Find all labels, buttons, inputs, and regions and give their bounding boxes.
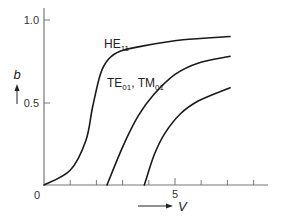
- curve-1: [107, 56, 230, 185]
- curve-label-he11: HE11: [104, 37, 130, 53]
- curves: [44, 37, 230, 186]
- x-axis-arrow-icon: [138, 204, 173, 209]
- curve-0: [44, 37, 230, 186]
- origin-label: 0: [34, 189, 40, 201]
- curve-label-te01-tm01: TE01, TM01: [107, 76, 164, 92]
- y-tick-label-05: 0.5: [24, 97, 39, 109]
- y-axis-label: b: [13, 67, 20, 82]
- x-ticks: [70, 178, 253, 185]
- x-axis-label: V: [178, 199, 188, 214]
- curve-2: [144, 88, 230, 185]
- chart: 1.0 0.5 0 5 b V HE11 TE01, TM01: [0, 0, 281, 221]
- y-tick-label-1: 1.0: [24, 14, 39, 26]
- y-ticks: [44, 20, 50, 103]
- y-axis-arrow-icon: [15, 84, 20, 104]
